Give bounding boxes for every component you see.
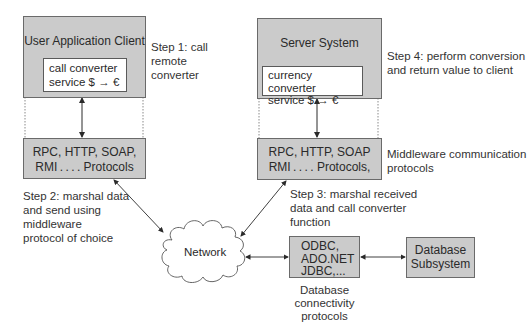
- server-service-line1: currency converter: [268, 69, 357, 94]
- server-protocols-line1: RPC, HTTP, SOAP: [258, 145, 381, 160]
- step2-label: Step 2: marshal dataand send usingmiddle…: [23, 189, 129, 245]
- client-protocols-line1: RPC, HTTP, SOAP,: [24, 145, 145, 160]
- client-protocols-box: RPC, HTTP, SOAP, RMI . . . . Protocols: [23, 138, 146, 179]
- server-service-box: currency converter service $ → €: [262, 66, 363, 96]
- server-title: Server System: [258, 36, 381, 50]
- client-service-box: call converter service $ → €: [43, 58, 127, 92]
- server-protocol-to-network-arrow: [241, 181, 286, 236]
- database-subsystem-box: DatabaseSubsystem: [406, 237, 475, 278]
- server-protocols-box: RPC, HTTP, SOAP RMI . . . . Protocols,: [257, 138, 382, 180]
- db-protocol-odbc: ODBC,: [301, 240, 359, 253]
- db-protocols-box: ODBC, ADO.NET JDBC,...: [289, 236, 360, 278]
- middleware-label: Middleware communicationprotocols: [387, 147, 526, 175]
- client-protocols-line2: RMI . . . . Protocols: [24, 160, 145, 175]
- server-protocols-line2: RMI . . . . Protocols,: [258, 160, 381, 175]
- network-label: Network: [184, 246, 226, 258]
- step4-label: Step 4: perform conversionand return val…: [387, 49, 525, 77]
- client-service-line1: call converter: [49, 61, 121, 75]
- client-service-line2: service $ → €: [49, 75, 121, 89]
- step1-label: Step 1: callremoteconverter: [151, 40, 208, 82]
- step3-label: Step 3: marshal receiveddata and call co…: [290, 187, 417, 229]
- client-title: User Application Client: [24, 34, 145, 48]
- server-system-box: Server System currency converter service…: [257, 18, 382, 99]
- user-application-client-box: User Application Client call converter s…: [23, 16, 146, 98]
- db-protocol-jdbc: JDBC,...: [301, 265, 359, 278]
- db-connectivity-caption: Databaseconnectivityprotocols: [289, 284, 360, 323]
- server-service-line2: service $ → €: [268, 94, 357, 107]
